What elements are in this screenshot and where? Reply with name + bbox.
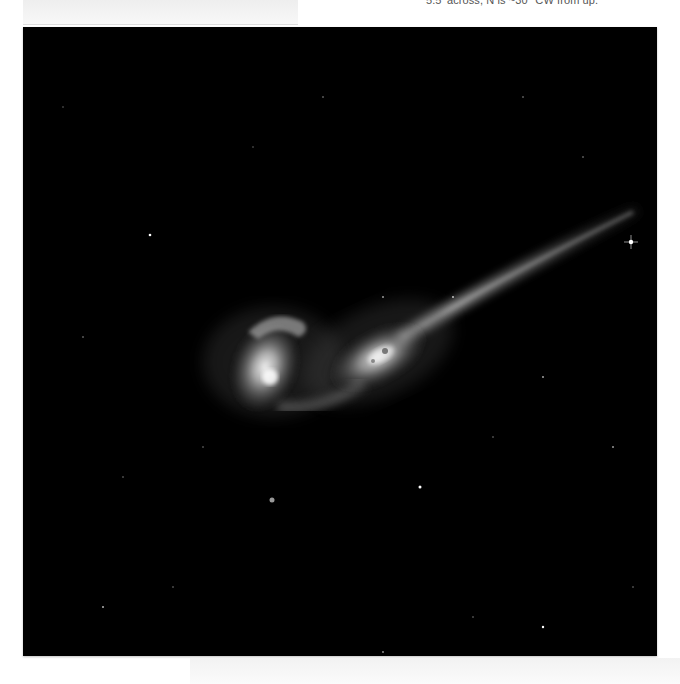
- image-caption: 5.5' across, N is ~30° CW from up.: [426, 0, 598, 6]
- astronomical-photo: [23, 27, 657, 656]
- galaxy-image: [23, 27, 657, 656]
- top-left-panel: [23, 0, 298, 25]
- bottom-panel: [190, 658, 680, 684]
